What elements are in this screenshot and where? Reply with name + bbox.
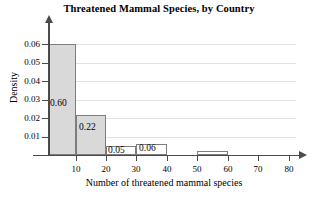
x-tick-label-50: 50	[186, 164, 208, 174]
bar-label-0-10: 0.60	[50, 98, 67, 108]
y-tick-0.06	[42, 44, 49, 45]
x-tick-label-60: 60	[217, 164, 239, 174]
x-axis-title: Number of threatened mammal species	[30, 177, 298, 188]
bar-bin-10-20	[76, 115, 106, 156]
x-tick-label-10: 10	[65, 164, 87, 174]
bar-label-30-40: 0.06	[139, 143, 156, 153]
bar-label-10-20: 0.22	[79, 122, 96, 132]
x-tick-50	[197, 155, 198, 161]
x-tick-10	[76, 155, 77, 161]
x-tick-label-80: 80	[278, 164, 300, 174]
bar-label-20-30: 0.05	[108, 145, 125, 155]
y-tick-0.05	[42, 63, 49, 64]
x-tick-60	[228, 155, 229, 161]
x-tick-label-70: 70	[247, 164, 269, 174]
gridline-0.03	[50, 100, 296, 101]
y-tick-0.03	[42, 100, 49, 101]
x-tick-70	[258, 155, 259, 161]
histogram-figure: Threatened Mammal Species, by Country 0.…	[0, 0, 318, 198]
gridline-0.06	[50, 44, 296, 45]
y-tick-label-0.01: 0.01	[10, 132, 40, 141]
x-tick-label-40: 40	[156, 164, 178, 174]
x-tick-label-30: 30	[125, 164, 147, 174]
y-tick-0.01	[42, 137, 49, 138]
x-tick-label-20: 20	[95, 164, 117, 174]
x-tick-30	[136, 155, 137, 161]
x-axis-arrow-icon	[299, 151, 307, 159]
gridline-0.04	[50, 81, 296, 82]
y-axis-arrow-icon	[45, 15, 53, 23]
gridline-0.05	[50, 63, 296, 64]
x-tick-80	[289, 155, 290, 161]
x-tick-40	[167, 155, 168, 161]
y-tick-label-0.06: 0.06	[10, 40, 40, 49]
plot-area: 0.60 0.22 0.05 0.06 0.01 0.02 0.03 0.04 …	[0, 0, 318, 198]
y-tick-0.02	[42, 118, 49, 119]
x-tick-20	[106, 155, 107, 161]
y-tick-0.04	[42, 81, 49, 82]
y-axis-title: Density	[8, 53, 19, 123]
